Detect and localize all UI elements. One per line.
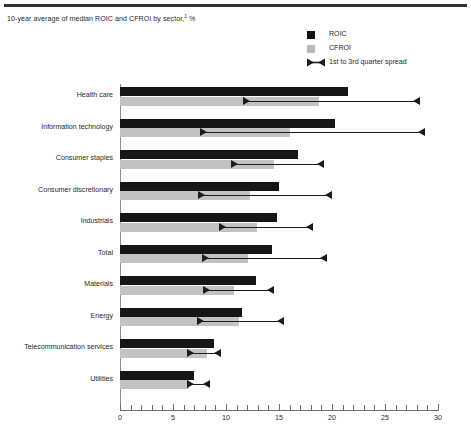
x-tick-minor	[290, 405, 291, 410]
category-label: Telecommunication services	[24, 344, 113, 351]
x-tick-minor	[396, 405, 397, 410]
spread-line	[197, 321, 284, 322]
x-tick-minor	[311, 405, 312, 410]
x-tick-minor	[321, 405, 322, 410]
spread-cap-right	[325, 191, 332, 199]
bar-cfroi	[120, 380, 189, 389]
spread-cap-left	[202, 254, 209, 262]
legend-swatch-wrap-cfroi	[307, 45, 329, 53]
spread-cap-left	[198, 191, 205, 199]
x-tick-minor	[215, 405, 216, 410]
spread-line	[231, 164, 323, 165]
spread-cap-right	[214, 349, 221, 357]
x-tick-minor	[268, 405, 269, 410]
category-label: Health care	[77, 92, 113, 99]
spread-marker	[187, 349, 221, 358]
bar-roic	[120, 87, 348, 96]
x-tick-minor	[417, 405, 418, 410]
category-label: Total	[98, 250, 113, 257]
x-tick-minor	[427, 405, 428, 410]
chart-row	[120, 150, 438, 169]
chart-row	[120, 87, 438, 106]
x-tick-minor	[364, 405, 365, 410]
spread-line	[200, 132, 426, 133]
chart-row	[120, 276, 438, 295]
spread-cap-right	[317, 160, 324, 168]
plot-area	[120, 84, 438, 402]
category-label: Consumer discretionary	[38, 187, 113, 194]
bar-roic	[120, 119, 335, 128]
x-tick-major	[226, 404, 227, 410]
x-tick-major	[332, 404, 333, 410]
legend-item-cfroi: CFROI	[307, 42, 459, 55]
x-tick-minor	[205, 405, 206, 410]
x-tick-minor	[353, 405, 354, 410]
top-rule	[4, 4, 467, 7]
spread-cap-right	[320, 254, 327, 262]
category-axis-labels: Health careInformation technologyConsume…	[0, 84, 113, 404]
bar-roic	[120, 213, 277, 222]
page-title: 10-year average of median ROIC and CFROI…	[7, 15, 195, 23]
spread-line	[202, 258, 327, 259]
spread-cap-right	[203, 380, 210, 388]
bar-roic	[120, 276, 256, 285]
x-tick-label: 10	[222, 415, 230, 422]
legend-item-roic: ROIC	[307, 28, 459, 41]
spread-marker	[200, 128, 426, 137]
spread-cap-left	[203, 286, 210, 294]
spread-cap-right	[277, 317, 284, 325]
x-tick-major	[438, 404, 439, 410]
spread-cap-left	[200, 128, 207, 136]
spread-cap-left	[243, 97, 250, 105]
category-label: Consumer staples	[56, 155, 113, 162]
x-tick-label: 30	[434, 415, 442, 422]
bar-roic	[120, 371, 194, 380]
chart-title-text: 10-year average of median ROIC and CFROI…	[7, 15, 184, 23]
spread-cap-left	[219, 223, 226, 231]
legend-swatch-wrap-spread	[307, 58, 329, 67]
category-label: Information technology	[41, 124, 113, 131]
legend-label-cfroi: CFROI	[329, 45, 351, 52]
x-tick-label: 25	[381, 415, 389, 422]
spread-line	[243, 101, 420, 102]
legend-item-spread: 1st to 3rd quarter spread	[307, 56, 459, 69]
x-axis: 051015202530	[120, 404, 439, 434]
x-tick-minor	[141, 405, 142, 410]
spread-line	[219, 227, 313, 228]
chart-row	[120, 182, 438, 201]
legend-label-spread: 1st to 3rd quarter spread	[329, 59, 407, 66]
spread-marker	[219, 223, 313, 232]
spread-cap-right	[267, 286, 274, 294]
spread-line	[198, 195, 332, 196]
spread-marker	[197, 317, 284, 326]
spread-cap-left	[197, 317, 204, 325]
x-tick-major	[120, 404, 121, 410]
category-label: Energy	[91, 313, 113, 320]
x-tick-minor	[343, 405, 344, 410]
chart-row	[120, 245, 438, 264]
chart-row	[120, 308, 438, 327]
x-tick-minor	[162, 405, 163, 410]
spread-marker	[231, 160, 323, 169]
bar-roic	[120, 245, 272, 254]
category-label: Materials	[84, 281, 113, 288]
spread-cap-left	[187, 349, 194, 357]
spread-cap-right	[306, 223, 313, 231]
x-tick-minor	[184, 405, 185, 410]
chart-row	[120, 213, 438, 232]
spread-marker	[187, 380, 210, 389]
legend-label-roic: ROIC	[329, 31, 347, 38]
bar-roic	[120, 182, 279, 191]
chart-row	[120, 339, 438, 358]
category-label: Industrials	[81, 218, 113, 225]
x-tick-minor	[194, 405, 195, 410]
filled-square-dark-icon	[307, 31, 315, 39]
x-tick-minor	[131, 405, 132, 410]
x-tick-label: 5	[171, 415, 175, 422]
spread-cap-left	[231, 160, 238, 168]
x-tick-major	[173, 404, 174, 410]
spread-marker	[202, 254, 327, 263]
x-tick-minor	[237, 405, 238, 410]
x-tick-minor	[300, 405, 301, 410]
legend-swatch-wrap-roic	[307, 31, 329, 39]
